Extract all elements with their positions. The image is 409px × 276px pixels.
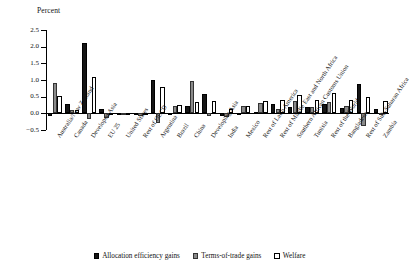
- legend-swatch-icon: [193, 253, 199, 259]
- y-axis-tick-label: 2.5: [30, 26, 39, 34]
- bar-group: [235, 30, 252, 130]
- legend-swatch-icon: [274, 253, 280, 259]
- y-axis-tick-label: −0.5: [26, 126, 39, 134]
- bar-group: [80, 30, 97, 130]
- bar: [207, 113, 211, 115]
- bar: [246, 106, 250, 113]
- y-axis-tick-label: 2.0: [30, 42, 39, 50]
- bar: [48, 113, 52, 115]
- y-axis-title: Percent: [37, 6, 60, 15]
- chart-legend: Allocation efficiency gains Terms-of-tra…: [0, 252, 399, 260]
- bar: [332, 93, 336, 113]
- legend-item-allocation-efficiency-gains: Allocation efficiency gains: [94, 252, 180, 260]
- y-axis-tick-label: 1.0: [30, 76, 39, 84]
- y-axis-tick-label: 1.5: [30, 59, 39, 67]
- bar: [366, 97, 370, 113]
- bar-group: [46, 30, 63, 130]
- legend-label: Welfare: [283, 252, 306, 260]
- bar: [57, 96, 61, 113]
- bar: [151, 80, 155, 114]
- legend-item-terms-of-trade-gains: Terms-of-trade gains: [193, 252, 261, 260]
- bar: [177, 105, 181, 113]
- y-axis-tick-label: 0.0: [30, 109, 39, 117]
- bar-group: [115, 30, 132, 130]
- bar: [126, 113, 130, 115]
- legend-item-welfare: Welfare: [274, 252, 305, 260]
- bar: [202, 94, 206, 113]
- bar: [263, 101, 267, 113]
- bar-group: [200, 30, 217, 130]
- legend-label: Allocation efficiency gains: [102, 252, 180, 260]
- y-axis-tick-label: 0.5: [30, 92, 39, 100]
- bar-group: [183, 30, 200, 130]
- y-axis-tick: −0.5: [41, 130, 46, 131]
- legend-label: Terms-of-trade gains: [201, 252, 261, 260]
- bar: [212, 101, 216, 114]
- bar: [195, 102, 199, 114]
- bar: [92, 77, 96, 113]
- legend-swatch-icon: [94, 253, 100, 259]
- bar-group: [252, 30, 269, 130]
- bar: [87, 113, 91, 119]
